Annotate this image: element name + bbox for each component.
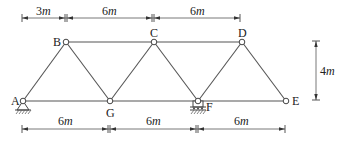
arrow-head-icon <box>314 94 317 100</box>
arrow-head-icon <box>22 16 28 19</box>
joint-D <box>239 39 245 45</box>
joint-C <box>151 39 157 45</box>
hatch-line <box>197 110 200 114</box>
top-dimension: 3m 6m 6m <box>22 4 240 22</box>
arrow-head-icon <box>279 127 285 130</box>
dimension-label-top-3: 6m <box>190 4 205 18</box>
truss-members <box>23 42 286 101</box>
node-label-A: A <box>11 94 20 108</box>
dimension-label-top-2: 6m <box>102 4 117 18</box>
arrow-head-icon <box>154 16 160 19</box>
truss-diagram: 3m 6m 6m <box>0 0 343 148</box>
roller-wheel-icon <box>193 108 195 110</box>
arrow-head-icon <box>146 16 152 19</box>
hatch-line <box>22 110 25 114</box>
hatch-line <box>200 110 203 114</box>
dimension-label-bottom-2: 6m <box>146 114 161 128</box>
hatch-line <box>19 110 22 114</box>
member-BG <box>66 42 110 101</box>
joint-B <box>63 39 69 45</box>
node-label-D: D <box>238 26 247 40</box>
member-GC <box>110 42 154 101</box>
hatch-line <box>25 110 28 114</box>
joint-E <box>283 98 289 104</box>
arrow-head-icon <box>198 127 204 130</box>
joint-G <box>107 98 113 104</box>
member-CF <box>154 42 198 101</box>
arrow-head-icon <box>59 16 65 19</box>
dimension-label-height: 4m <box>320 64 335 78</box>
node-label-G: G <box>106 106 115 120</box>
hatch-line <box>16 110 19 114</box>
member-FD <box>198 42 242 101</box>
arrow-head-icon <box>314 41 317 47</box>
arrow-head-icon <box>190 127 196 130</box>
node-label-B: B <box>53 35 61 49</box>
roller-wheel-icon <box>201 108 203 110</box>
joint-A <box>20 98 26 104</box>
member-DE <box>242 42 286 101</box>
arrow-head-icon <box>234 16 240 19</box>
arrow-head-icon <box>22 127 28 130</box>
arrow-head-icon <box>67 16 73 19</box>
hatch-line <box>28 110 31 114</box>
node-label-C: C <box>150 26 158 40</box>
dimension-label-top-1: 3m <box>36 4 51 18</box>
arrow-head-icon <box>110 127 116 130</box>
hatch-line <box>194 110 197 114</box>
dimension-label-bottom-3: 6m <box>234 114 249 128</box>
roller-wheel-icon <box>197 108 199 110</box>
member-AB <box>23 42 66 101</box>
arrow-head-icon <box>102 127 108 130</box>
bottom-dimension: 6m 6m 6m <box>22 114 285 133</box>
node-label-E: E <box>292 94 299 108</box>
dimension-label-bottom-1: 6m <box>58 114 73 128</box>
node-label-F: F <box>206 100 213 114</box>
joint-F <box>195 98 201 104</box>
height-dimension: 4m <box>312 41 335 100</box>
hatch-line <box>191 110 194 114</box>
